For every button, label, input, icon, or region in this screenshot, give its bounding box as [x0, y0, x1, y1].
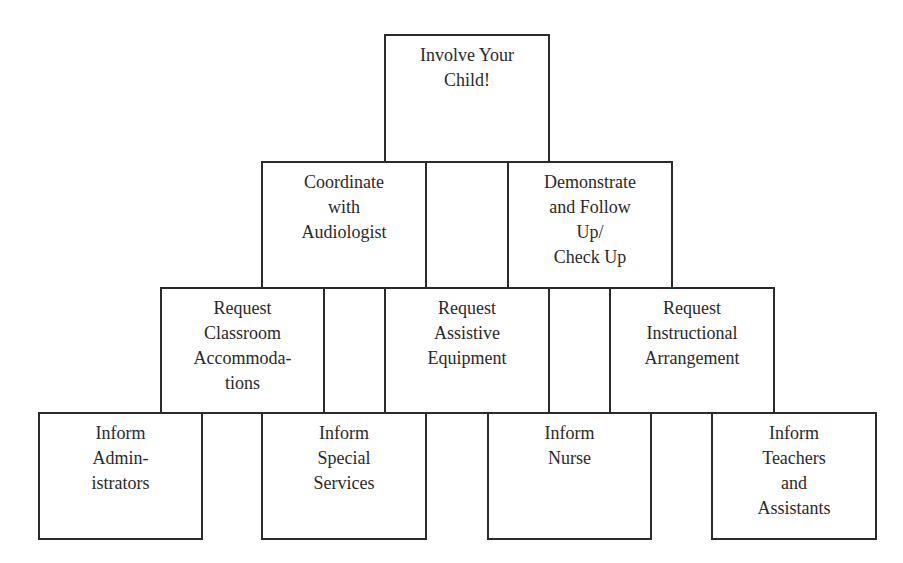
box-involve-your-child: Involve Your Child! — [384, 34, 550, 163]
connector-line — [201, 412, 263, 414]
box-coordinate-with-audiologist: Coordinate with Audiologist — [261, 161, 427, 289]
connector-line — [425, 412, 489, 414]
connector-line — [650, 412, 713, 414]
box-label: Inform Teachers and Assistants — [713, 421, 875, 521]
box-label: Inform Nurse — [489, 421, 650, 471]
box-inform-nurse: Inform Nurse — [487, 412, 652, 540]
box-label: Request Assistive Equipment — [386, 296, 548, 371]
box-inform-teachers-assistants: Inform Teachers and Assistants — [711, 412, 877, 540]
box-request-classroom-accommodations: Request Classroom Accommoda- tions — [160, 287, 325, 414]
box-label: Request Classroom Accommoda- tions — [162, 296, 323, 396]
pyramid-diagram: Involve Your Child! Coordinate with Audi… — [0, 0, 903, 563]
box-request-assistive-equipment: Request Assistive Equipment — [384, 287, 550, 414]
box-inform-special-services: Inform Special Services — [261, 412, 427, 540]
connector-line — [425, 161, 509, 163]
box-label: Inform Special Services — [263, 421, 425, 496]
box-label: Request Instructional Arrangement — [611, 296, 773, 371]
box-label: Inform Admin- istrators — [40, 421, 201, 496]
box-label: Coordinate with Audiologist — [263, 170, 425, 245]
box-inform-administrators: Inform Admin- istrators — [38, 412, 203, 540]
connector-line — [323, 287, 386, 289]
box-demonstrate-follow-up: Demonstrate and Follow Up/ Check Up — [507, 161, 673, 289]
box-label: Involve Your Child! — [386, 43, 548, 93]
box-request-instructional-arrangement: Request Instructional Arrangement — [609, 287, 775, 414]
box-label: Demonstrate and Follow Up/ Check Up — [509, 170, 671, 270]
connector-line — [548, 287, 611, 289]
